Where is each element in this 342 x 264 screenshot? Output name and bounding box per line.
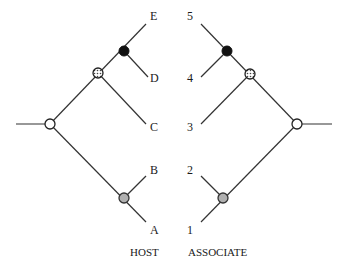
host-caption: HOST [130,247,159,258]
host-root-node [45,119,55,129]
host-tip-label: C [150,121,158,133]
associate-tip-label: 5 [187,10,193,22]
assoc-branch-4 [201,51,227,77]
associate-tip-label: 3 [187,121,193,133]
assoc-stippled-node [245,69,255,79]
assoc-gray-node [218,193,228,203]
host-gray-node [119,193,129,203]
assoc-branch-3 [201,74,250,124]
associate-tip-label: 1 [187,224,193,236]
associate-tip-label: 4 [187,72,193,84]
tree-canvas [0,0,342,264]
host-branch-to-A [50,124,146,222]
assoc-root-node [292,119,302,129]
host-black-node [119,46,129,56]
host-tip-label: E [150,10,157,22]
associate-tip-label: 2 [187,164,193,176]
host-tip-label: B [150,164,158,176]
host-tip-label: A [150,224,159,236]
assoc-branch-to-1 [201,124,297,222]
associate-tree [201,24,332,222]
host-stippled-node [93,68,103,78]
assoc-black-node [222,46,232,56]
host-branch-C [98,73,146,124]
host-tip-label: D [150,72,159,84]
associate-caption: ASSOCIATE [188,247,247,258]
